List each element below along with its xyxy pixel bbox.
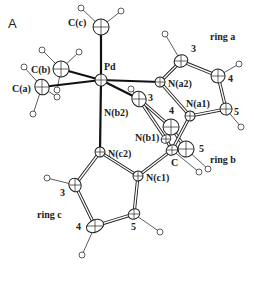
atom-label-a4: 4 xyxy=(228,73,233,84)
atom-label-Nc2: N(c2) xyxy=(108,148,131,160)
atom-a5 xyxy=(218,101,234,117)
atom-label-Nb2: N(b2) xyxy=(104,107,128,119)
ring-label: ring b xyxy=(210,154,236,165)
atom-label-a5: 5 xyxy=(234,106,239,117)
atom-labels: PdC(c)C(b)C(a)N(a2)345N(a1)3N(b2)4N(b1)C… xyxy=(12,17,239,232)
atom-label-Ca: C(a) xyxy=(12,83,31,95)
atom-label-Na1: N(a1) xyxy=(186,98,210,110)
atom-b5 xyxy=(175,138,196,159)
ring-label: ring c xyxy=(37,209,62,220)
atom-a4 xyxy=(209,67,228,86)
atom-label-c4: 4 xyxy=(76,221,81,232)
atom-label-b3: 3 xyxy=(148,92,153,103)
atom-c5 xyxy=(126,207,141,221)
atom-label-Cc: C(c) xyxy=(68,17,86,29)
heavy-atoms xyxy=(32,16,234,235)
atom-Pd xyxy=(93,72,109,88)
atom-label-c3: 3 xyxy=(60,187,65,198)
atom-label-Cb: C(b) xyxy=(31,64,50,76)
atom-label-Nc1: N(c1) xyxy=(146,172,169,184)
ring-label: ring a xyxy=(210,31,235,42)
atom-label-b5: 5 xyxy=(199,143,204,154)
atom-label-Cm: C xyxy=(171,157,178,168)
atom-label-b4: 4 xyxy=(169,105,174,116)
panel-label: A xyxy=(8,16,17,31)
molecular-structure-diagram: A xyxy=(0,0,254,286)
atom-label-c5: 5 xyxy=(131,221,136,232)
atom-label-Na2: N(a2) xyxy=(168,78,192,90)
atom-label-Nb1: N(b1) xyxy=(135,132,159,144)
atom-label-Pd: Pd xyxy=(104,61,116,72)
atom-label-a3: 3 xyxy=(191,43,196,54)
atom-c4 xyxy=(84,217,105,235)
